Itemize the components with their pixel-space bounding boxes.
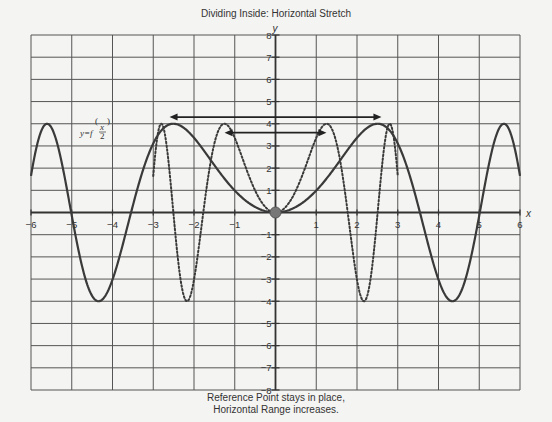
reference-point xyxy=(270,207,281,218)
arrowhead-left-icon xyxy=(225,129,233,136)
function-label: y=f ( x 2 ) xyxy=(79,116,110,141)
x-tick-label: 2 xyxy=(354,219,359,230)
arrowhead-left-icon xyxy=(170,114,178,121)
function-label-paren-close: ) xyxy=(107,116,110,126)
y-tick-label: −2 xyxy=(261,251,272,262)
y-tick-label: −1 xyxy=(261,229,272,240)
y-tick-label: 4 xyxy=(266,118,271,129)
x-axis-label: x xyxy=(525,208,532,219)
x-tick-label: 3 xyxy=(395,219,400,230)
y-tick-label: 3 xyxy=(266,140,271,151)
x-tick-label: 6 xyxy=(517,219,522,230)
y-tick-label: −3 xyxy=(261,274,272,285)
y-tick-label: 1 xyxy=(266,185,271,196)
function-label-denominator: 2 xyxy=(100,131,105,141)
y-tick-label: 7 xyxy=(266,52,271,63)
caption-line-1: Reference Point stays in place, xyxy=(0,392,552,404)
function-label-paren-open: ( xyxy=(95,116,98,126)
y-axis-label: y xyxy=(272,23,279,34)
caption-line-2: Horizontal Range increases. xyxy=(0,404,552,416)
arrowhead-right-icon xyxy=(373,114,381,121)
chart-plot: −6−5−4−3−2−1123456−8−7−6−5−4−3−2−1123456… xyxy=(0,0,552,422)
x-tick-label: −2 xyxy=(189,219,200,230)
x-tick-label: −3 xyxy=(148,219,159,230)
y-tick-label: −5 xyxy=(261,318,272,329)
y-tick-label: 6 xyxy=(266,74,271,85)
x-tick-label: 4 xyxy=(436,219,441,230)
function-label-prefix: y=f xyxy=(79,128,94,138)
y-tick-label: 8 xyxy=(266,30,271,41)
y-tick-label: −7 xyxy=(261,362,272,373)
x-tick-label: −4 xyxy=(107,219,118,230)
chart-caption: Reference Point stays in place, Horizont… xyxy=(0,392,552,416)
y-tick-label: 5 xyxy=(266,96,271,107)
x-tick-label: −6 xyxy=(26,219,37,230)
y-tick-label: −6 xyxy=(261,340,272,351)
y-tick-label: −4 xyxy=(261,296,272,307)
x-tick-label: 1 xyxy=(314,219,319,230)
x-tick-label: −1 xyxy=(229,219,240,230)
arrowhead-right-icon xyxy=(318,129,326,136)
y-tick-label: 2 xyxy=(266,163,271,174)
